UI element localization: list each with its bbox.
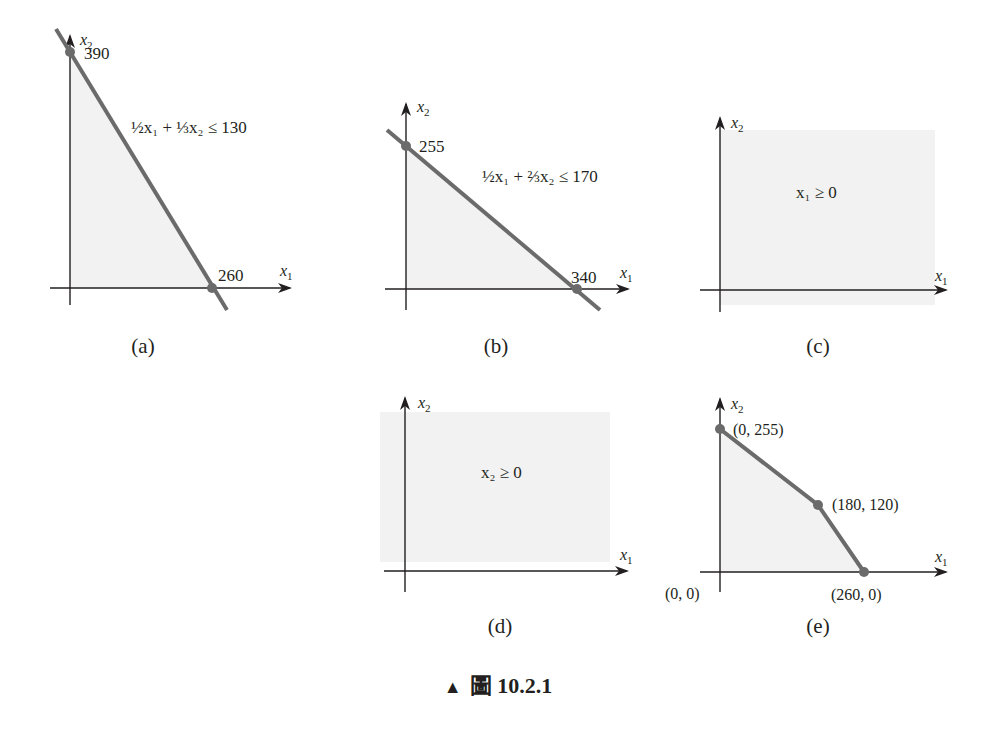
feasible-region-c bbox=[720, 130, 935, 305]
y-intercept-point-b bbox=[401, 141, 411, 151]
x-axis-label-b: x1 bbox=[619, 264, 633, 284]
figure-caption: ▲圖 10.2.1 bbox=[444, 673, 552, 698]
panel-label-a: (a) bbox=[131, 334, 154, 358]
y-intercept-label-b: 255 bbox=[419, 137, 445, 156]
x-intercept-label-a: 260 bbox=[218, 266, 244, 285]
y-axis-label-e: x2 bbox=[730, 395, 744, 415]
x-axis-label-d: x1 bbox=[619, 546, 633, 566]
vertex-point-260-0 bbox=[859, 567, 869, 577]
constraint-label-a: ½x₁ + ⅓x₂ ≤ 130 bbox=[131, 118, 247, 137]
x-axis-label-a: x1 bbox=[279, 262, 293, 282]
panel-e: (0, 0) (0, 255) (180, 120) (260, 0) x2 x… bbox=[665, 395, 948, 604]
panel-a: 390 260 ½x₁ + ⅓x₂ ≤ 130 x2 x1 bbox=[50, 29, 293, 310]
figure-canvas: 390 260 ½x₁ + ⅓x₂ ≤ 130 x2 x1 255 340 ½x… bbox=[0, 0, 986, 735]
constraint-label-b: ½x₁ + ⅔x₂ ≤ 170 bbox=[482, 167, 598, 186]
panel-label-d: (d) bbox=[488, 614, 513, 638]
vertex-label-260-0: (260, 0) bbox=[831, 586, 882, 604]
y-axis-label-b: x2 bbox=[416, 98, 430, 118]
panel-label-e: (e) bbox=[806, 614, 829, 638]
y-intercept-point-a bbox=[65, 47, 75, 57]
vertex-point-180-120 bbox=[813, 500, 823, 510]
x-intercept-label-b: 340 bbox=[571, 268, 597, 287]
panel-d: x₂ ≥ 0 x2 x1 bbox=[380, 394, 633, 592]
panel-b: 255 340 ½x₁ + ⅔x₂ ≤ 170 x2 x1 bbox=[385, 98, 633, 310]
x-axis-label-e: x1 bbox=[934, 548, 948, 568]
vertex-label-0-255: (0, 255) bbox=[733, 421, 784, 439]
vertex-point-0-255 bbox=[715, 424, 725, 434]
feasible-region-d bbox=[380, 412, 610, 562]
vertex-label-0-0: (0, 0) bbox=[665, 585, 700, 603]
y-axis-label-d: x2 bbox=[417, 394, 431, 414]
panel-label-c: (c) bbox=[806, 334, 829, 358]
constraint-label-d: x₂ ≥ 0 bbox=[481, 463, 522, 482]
panel-label-b: (b) bbox=[484, 334, 509, 358]
x-axis-label-c: x1 bbox=[934, 267, 948, 287]
vertex-label-180-120: (180, 120) bbox=[832, 496, 899, 514]
constraint-label-c: x₁ ≥ 0 bbox=[796, 183, 837, 202]
x-intercept-point-a bbox=[207, 283, 217, 293]
panel-c: x₁ ≥ 0 x2 x1 bbox=[700, 114, 948, 312]
caption-triangle-icon: ▲ bbox=[444, 677, 462, 697]
